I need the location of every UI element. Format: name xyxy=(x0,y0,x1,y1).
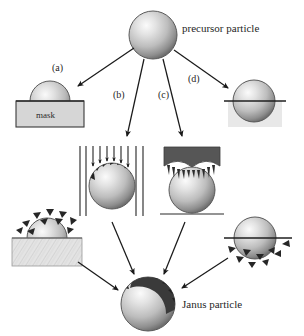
precursor-particle-label: precursor particle xyxy=(182,22,259,34)
janus-particle-synthesis-diagram: precursor particle (a) (b) (c) (d) mask xyxy=(0,0,304,336)
route-c-sphere xyxy=(169,167,215,213)
mask-label: mask xyxy=(36,110,55,120)
route-label-d: (d) xyxy=(188,73,200,85)
route-label-a: (a) xyxy=(52,62,63,74)
precursor-particle-sphere xyxy=(129,11,177,59)
route-b-sphere xyxy=(89,163,135,209)
janus-particle-label: Janus particle xyxy=(182,298,242,310)
route-label-c: (c) xyxy=(158,89,169,101)
precursor-particle-node xyxy=(129,11,177,59)
diagram-canvas: precursor particle (a) (b) (c) (d) mask xyxy=(0,0,304,336)
route-label-b: (b) xyxy=(113,89,125,101)
route-a-dep-mask-block xyxy=(12,238,82,266)
